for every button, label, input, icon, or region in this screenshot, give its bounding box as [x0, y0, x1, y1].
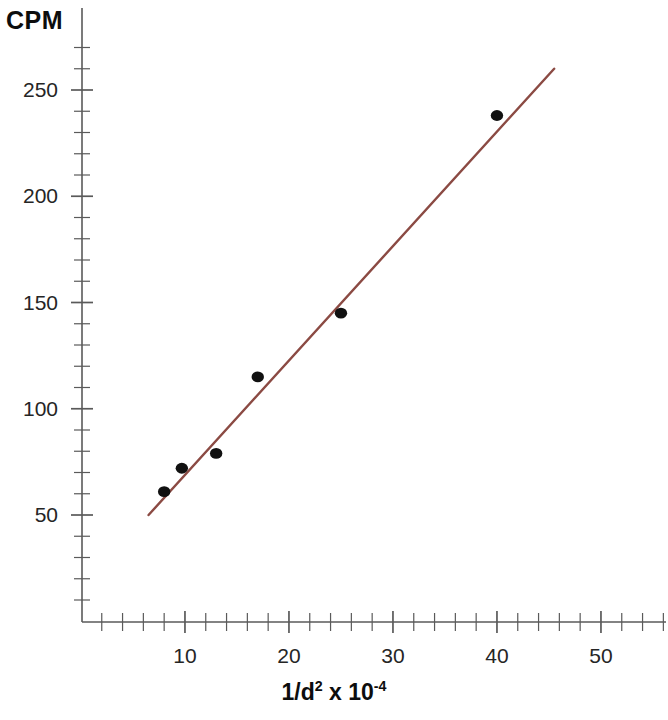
x-axis-tick-label: 30 [381, 644, 404, 668]
x-axis-tick-label: 50 [589, 644, 612, 668]
y-axis-tick-label: 150 [0, 291, 58, 315]
data-point [210, 448, 222, 459]
data-point [252, 371, 264, 382]
trend-line [149, 69, 555, 515]
y-axis-tick-label: 250 [0, 78, 58, 102]
y-axis-tick-label: 200 [0, 184, 58, 208]
x-axis-tick-label: 10 [173, 644, 196, 668]
data-point [176, 463, 188, 474]
plot-area [0, 0, 668, 720]
y-axis-tick-label: 50 [0, 503, 58, 527]
y-axis-tick-label: 100 [0, 397, 58, 421]
data-point [335, 308, 347, 319]
x-axis-tick-label: 20 [277, 644, 300, 668]
x-axis-tick-label: 40 [485, 644, 508, 668]
data-point [158, 486, 170, 497]
data-point [491, 110, 503, 121]
chart-container: CPM 1/d2 x 10-4 501001502002501020304050 [0, 0, 668, 720]
